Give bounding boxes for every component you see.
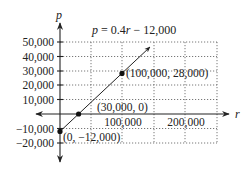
y-tick-neg10000: −10,000: [16, 123, 54, 136]
equation-label: p = 0.4r − 12,000: [91, 23, 176, 37]
point-x-intercept: [76, 111, 81, 116]
y-tick-30000: 30,000: [22, 65, 54, 78]
point-100000: [119, 71, 124, 76]
y-tick-neg20000: −20,000: [16, 137, 54, 150]
x-tick-100000: 100,000: [104, 116, 142, 129]
label-y-intercept: (0, −12,000): [63, 131, 120, 144]
x-tick-200000: 200,000: [167, 116, 205, 129]
y-tick-50000: 50,000: [22, 36, 54, 49]
x-axis-label: r: [235, 107, 240, 121]
chart: p r p = 0.4r − 12,000 50,000 40,000 30,0…: [0, 0, 245, 171]
y-tick-20000: 20,000: [22, 79, 54, 92]
label-point-100000: (100,000, 28,000): [126, 67, 209, 80]
y-tick-40000: 40,000: [22, 51, 54, 64]
y-axis-label: p: [55, 8, 62, 22]
y-tick-10000: 10,000: [22, 94, 54, 107]
point-y-intercept: [57, 129, 62, 134]
label-x-intercept: (30,000, 0): [97, 101, 148, 114]
